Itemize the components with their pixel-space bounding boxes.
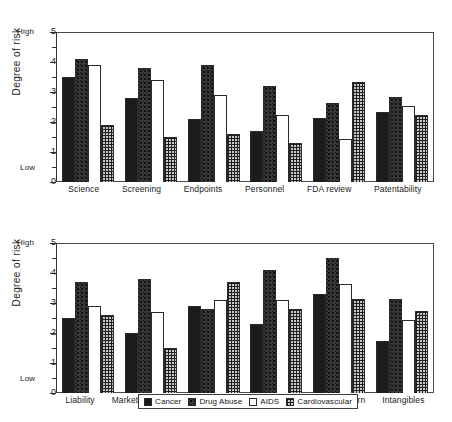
chart-panel-top: Degree of risk High Low 012345 ScienceSc…	[0, 0, 452, 211]
y-tick-label: 0	[12, 387, 56, 397]
bar-cancer[interactable]	[376, 112, 389, 183]
bar-cancer[interactable]	[250, 324, 263, 393]
bar-aids[interactable]	[276, 300, 289, 393]
x-axis-label: Screening	[122, 184, 161, 194]
solid-black-swatch	[144, 398, 152, 406]
legend-label: Drug Abuse	[199, 397, 242, 406]
bar-drug-abuse[interactable]	[263, 270, 276, 393]
y-tick-label: 5	[12, 26, 56, 36]
y-tick-label: 1	[12, 357, 56, 367]
legend-item[interactable]: Cardiovascular	[286, 397, 352, 406]
y-tick-minor	[52, 137, 56, 138]
bar-cardiovascular[interactable]	[289, 143, 302, 182]
bar-drug-abuse[interactable]	[201, 65, 214, 182]
legend-item[interactable]: Drug Abuse	[188, 397, 242, 406]
bar-cardiovascular[interactable]	[164, 348, 177, 393]
legend-label: Cancer	[155, 397, 181, 406]
legend-item[interactable]: AIDS	[249, 397, 279, 406]
bar-cardiovascular[interactable]	[352, 82, 365, 183]
x-axis-label: FDA review	[307, 184, 351, 194]
y-tick-label: 4	[12, 56, 56, 66]
bar-group	[125, 33, 177, 182]
y-tick-minor	[52, 378, 56, 379]
bar-aids[interactable]	[402, 320, 415, 394]
bar-aids[interactable]	[214, 300, 227, 393]
bar-group	[250, 33, 302, 182]
bar-cardiovascular[interactable]	[101, 125, 114, 182]
bar-aids[interactable]	[339, 139, 352, 183]
bar-cardiovascular[interactable]	[101, 315, 114, 393]
bar-cardiovascular[interactable]	[164, 137, 177, 182]
y-tick-label: 3	[12, 297, 56, 307]
x-axis-label: Endpoints	[184, 184, 223, 194]
y-tick-label: 0	[12, 176, 56, 186]
bar-aids[interactable]	[88, 306, 101, 393]
bar-cancer[interactable]	[313, 118, 326, 183]
y-tick-label: 5	[12, 237, 56, 247]
bar-cardiovascular[interactable]	[352, 299, 365, 394]
bar-cancer[interactable]	[313, 294, 326, 393]
y-tick-minor	[52, 167, 56, 168]
bar-cardiovascular[interactable]	[415, 311, 428, 394]
bar-group	[376, 244, 428, 393]
bar-group	[125, 244, 177, 393]
bar-cancer[interactable]	[62, 318, 75, 393]
bar-group	[188, 244, 240, 393]
bar-drug-abuse[interactable]	[138, 279, 151, 393]
crosshatch-swatch	[286, 398, 294, 406]
bar-drug-abuse[interactable]	[75, 59, 88, 182]
x-axis-label: Patentability	[374, 184, 422, 194]
y-tick-label: 3	[12, 86, 56, 96]
bar-cancer[interactable]	[250, 131, 263, 182]
bar-groups-bottom	[57, 244, 433, 393]
bar-drug-abuse[interactable]	[326, 258, 339, 393]
y-tick-label: 4	[12, 267, 56, 277]
bar-aids[interactable]	[214, 95, 227, 182]
y-tick-minor	[52, 77, 56, 78]
bar-groups-top	[57, 33, 433, 182]
y-tick-minor	[52, 258, 56, 259]
bar-cardiovascular[interactable]	[289, 309, 302, 393]
bar-aids[interactable]	[88, 65, 101, 182]
bar-cancer[interactable]	[125, 333, 138, 393]
bar-drug-abuse[interactable]	[75, 282, 88, 393]
bar-group	[313, 244, 365, 393]
bar-aids[interactable]	[151, 312, 164, 393]
bar-cancer[interactable]	[376, 341, 389, 394]
bar-group	[376, 33, 428, 182]
bar-cardiovascular[interactable]	[227, 134, 240, 182]
bar-aids[interactable]	[402, 106, 415, 183]
bar-cardiovascular[interactable]	[227, 282, 240, 393]
x-axis-labels-top: ScienceScreeningEndpointsPersonnelFDA re…	[57, 184, 433, 194]
bar-drug-abuse[interactable]	[389, 299, 402, 394]
y-tick-label: 2	[12, 327, 56, 337]
y-tick-minor	[52, 318, 56, 319]
bar-cancer[interactable]	[62, 77, 75, 182]
bar-group	[62, 33, 114, 182]
x-axis-label: Personnel	[245, 184, 284, 194]
chart-panel-bottom: Degree of risk High Low 012345 Liability…	[0, 211, 452, 422]
bar-drug-abuse[interactable]	[326, 103, 339, 183]
bar-cardiovascular[interactable]	[415, 115, 428, 183]
y-tick-label: 1	[12, 146, 56, 156]
x-axis-label: Intangibles	[382, 395, 424, 405]
legend-label: AIDS	[260, 397, 279, 406]
bar-group	[250, 244, 302, 393]
bar-cancer[interactable]	[125, 98, 138, 182]
bar-drug-abuse[interactable]	[201, 309, 214, 393]
bar-cancer[interactable]	[188, 119, 201, 182]
legend-item[interactable]: Cancer	[144, 397, 181, 406]
bar-aids[interactable]	[339, 284, 352, 394]
bar-drug-abuse[interactable]	[389, 97, 402, 183]
bar-drug-abuse[interactable]	[138, 68, 151, 182]
x-axis-label: Science	[68, 184, 99, 194]
bar-drug-abuse[interactable]	[263, 86, 276, 182]
bar-aids[interactable]	[276, 115, 289, 183]
y-tick-minor	[52, 288, 56, 289]
bar-cancer[interactable]	[188, 306, 201, 393]
open-white-swatch	[249, 398, 257, 406]
dark-stipple-swatch	[188, 398, 196, 406]
bar-group	[62, 244, 114, 393]
bar-aids[interactable]	[151, 80, 164, 182]
y-axis-low-label-top: Low	[20, 163, 35, 172]
